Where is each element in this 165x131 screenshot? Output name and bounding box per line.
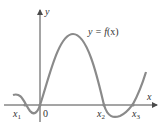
- function-label: y = f(x): [87, 26, 119, 38]
- root-label-x1: x1: [12, 108, 21, 121]
- graph-canvas: y x 0 y = f(x) x1 x2 x3: [0, 0, 165, 131]
- root-point-x1: [23, 103, 26, 106]
- function-label-rest: (x): [107, 26, 119, 38]
- root-label-x3: x3: [131, 108, 140, 121]
- function-graph: y x 0 y = f(x) x1 x2 x3: [0, 0, 165, 131]
- origin-label: 0: [43, 108, 48, 119]
- root-point-x2: [102, 103, 105, 106]
- root-point-x3: [131, 103, 134, 106]
- root-label-x2: x2: [96, 108, 105, 121]
- y-axis-label: y: [44, 6, 50, 17]
- x-axis-label: x: [146, 91, 152, 102]
- function-label-lhs: y =: [87, 26, 104, 37]
- origin-point: [38, 103, 41, 106]
